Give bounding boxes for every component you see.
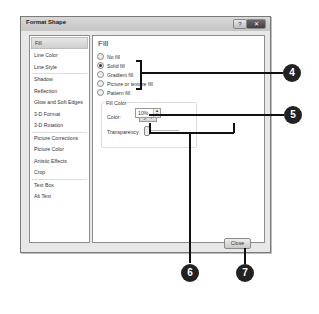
sidebar-item-3d-rotation[interactable]: 3-D Rotation bbox=[30, 120, 89, 132]
section-title: Fill bbox=[98, 39, 108, 48]
bracket-bottom bbox=[149, 132, 234, 134]
sidebar-item-picture-corrections[interactable]: Picture Corrections bbox=[30, 133, 89, 145]
sidebar-item-reflection[interactable]: Reflection bbox=[30, 86, 89, 98]
radio-label: Picture or texture fill bbox=[107, 81, 153, 87]
radio-no-fill[interactable]: No fill bbox=[97, 53, 120, 60]
bracket-line bbox=[136, 60, 142, 90]
callout-badge-6: 6 bbox=[181, 264, 199, 282]
radio-gradient-fill[interactable]: Gradient fill bbox=[97, 71, 133, 78]
radio-pattern-fill[interactable]: Pattern fill bbox=[97, 89, 130, 96]
transparency-label: Transparency: bbox=[107, 129, 140, 135]
help-button[interactable]: ? bbox=[233, 19, 247, 29]
sidebar-item-glow-soft-edges[interactable]: Glow and Soft Edges bbox=[30, 97, 89, 109]
sidebar-item-alt-text[interactable]: Alt Text bbox=[30, 191, 89, 203]
close-button[interactable]: Close bbox=[224, 238, 251, 249]
radio-picture-texture-fill[interactable]: Picture or texture fill bbox=[97, 80, 153, 87]
radio-button[interactable] bbox=[97, 53, 104, 60]
callout-line-6 bbox=[189, 133, 191, 263]
sidebar-item-line-style[interactable]: Line Style bbox=[30, 62, 89, 74]
sidebar-item-picture-color[interactable]: Picture Color bbox=[30, 144, 89, 156]
fill-settings-panel: Fill No fill Solid fill Gradient fill Pi… bbox=[92, 35, 265, 243]
callout-badge-7: 7 bbox=[236, 264, 254, 282]
callout-badge-5: 5 bbox=[284, 106, 302, 124]
radio-button[interactable] bbox=[97, 62, 104, 69]
callout-badge-4: 4 bbox=[283, 64, 301, 82]
radio-solid-fill[interactable]: Solid fill bbox=[97, 62, 125, 69]
radio-button[interactable] bbox=[97, 89, 104, 96]
sidebar-item-artistic-effects[interactable]: Artistic Effects bbox=[30, 156, 89, 168]
sidebar-item-crop[interactable]: Crop bbox=[30, 167, 89, 179]
transparency-spinbox[interactable]: 10% ▲ ▼ bbox=[135, 108, 161, 118]
sidebar-item-3d-format[interactable]: 3-D Format bbox=[30, 109, 89, 121]
sidebar-item-fill[interactable]: Fill bbox=[31, 37, 88, 49]
callout-line-5 bbox=[149, 114, 284, 116]
category-list: Fill Line Color Line Style Shadow Reflec… bbox=[29, 35, 90, 243]
radio-label: Solid fill bbox=[107, 63, 125, 69]
radio-button[interactable] bbox=[97, 71, 104, 78]
callout-line-7 bbox=[244, 248, 246, 264]
transparency-value[interactable]: 10% bbox=[138, 110, 148, 116]
sidebar-item-text-box[interactable]: Text Box bbox=[30, 180, 89, 192]
color-label: Color: bbox=[107, 114, 121, 120]
radio-label: Pattern fill bbox=[107, 90, 130, 96]
callout-line-4 bbox=[141, 72, 283, 74]
transparency-slider-track[interactable] bbox=[149, 130, 179, 131]
group-label: Fill Color bbox=[105, 100, 127, 106]
radio-button[interactable] bbox=[97, 80, 104, 87]
dialog-title: Format Shape bbox=[26, 19, 66, 25]
format-shape-dialog: Format Shape ? ✕ Fill Line Color Line St… bbox=[20, 16, 271, 253]
bracket-right bbox=[233, 123, 235, 133]
radio-label: No fill bbox=[107, 54, 120, 60]
sidebar-item-line-color[interactable]: Line Color bbox=[30, 50, 89, 62]
sidebar-item-shadow[interactable]: Shadow bbox=[30, 74, 89, 86]
title-bar: Format Shape ? ✕ bbox=[21, 17, 270, 31]
window-close-button[interactable]: ✕ bbox=[246, 19, 266, 29]
radio-label: Gradient fill bbox=[107, 72, 133, 78]
